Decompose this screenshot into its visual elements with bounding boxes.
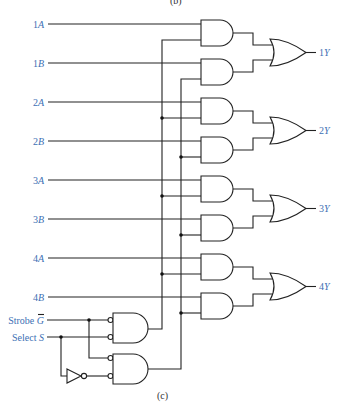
and-gate-3b xyxy=(201,215,233,241)
input-label-1a: 1A xyxy=(33,19,45,30)
strobe-label: Strobe G xyxy=(8,315,44,326)
input-label-2a: 2A xyxy=(33,97,45,108)
junction-dot xyxy=(160,272,164,276)
junction-dot xyxy=(87,318,91,322)
junction-dot xyxy=(59,335,63,339)
and-gate-4a xyxy=(201,254,233,280)
junction-dot xyxy=(179,233,183,237)
and-gate-3a xyxy=(201,176,233,202)
junction-dot xyxy=(160,116,164,120)
top-caption-partial: (b) xyxy=(170,0,182,7)
control-gate-1 xyxy=(113,313,148,343)
control-gate-2 xyxy=(113,354,148,384)
or-gate-1y xyxy=(270,39,306,66)
output-label-1y: 1Y xyxy=(319,47,331,58)
and-gate-4b xyxy=(201,293,233,319)
and-gate-2b xyxy=(201,137,233,163)
or-gate-4y xyxy=(270,273,306,300)
or-gate-3y xyxy=(270,195,306,222)
input-label-4a: 4A xyxy=(33,253,45,264)
output-label-2y: 2Y xyxy=(319,125,331,136)
output-label-4y: 4Y xyxy=(319,281,331,292)
or-gates xyxy=(270,39,306,300)
multiplexer-logic-diagram: (b) 1A 1B 2A 2B 3A 3B 4A 4B xyxy=(0,0,349,407)
outputs: 1Y 2Y 3Y 4Y xyxy=(306,47,331,292)
inverter-gate xyxy=(67,369,81,383)
input-labels: 1A 1B 2A 2B 3A 3B 4A 4B xyxy=(33,19,45,303)
input-label-4b: 4B xyxy=(33,292,44,303)
and-gate-2a xyxy=(201,98,233,124)
or-gate-2y xyxy=(270,117,306,144)
and-gates xyxy=(201,20,233,319)
input-label-2b: 2B xyxy=(33,136,44,147)
junction-dot xyxy=(179,311,183,315)
inverter-bubble xyxy=(81,373,86,378)
input-label-3a: 3A xyxy=(33,175,45,186)
and-to-or-wires xyxy=(233,33,273,306)
input-label-3b: 3B xyxy=(33,214,44,225)
and-gate-1b xyxy=(201,59,233,85)
and-gate-1a xyxy=(201,20,233,46)
junction-dot xyxy=(160,194,164,198)
input-wires xyxy=(48,24,201,297)
enable-buses xyxy=(148,40,201,369)
figure-caption: (c) xyxy=(157,390,168,402)
control-section: Strobe G Select S xyxy=(8,313,148,384)
select-label: Select S xyxy=(12,332,44,343)
input-label-1b: 1B xyxy=(33,58,44,69)
junction-dot xyxy=(179,155,183,159)
output-label-3y: 3Y xyxy=(319,203,331,214)
